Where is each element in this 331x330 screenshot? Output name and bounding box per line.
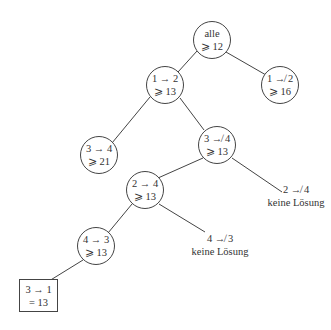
node-bound: ⩾ 13 <box>134 190 156 203</box>
node-4-to-3: 4 → 3 ⩾ 13 <box>77 227 115 265</box>
edge-2-4-4-3 <box>108 204 132 233</box>
node-root: alle ⩾ 12 <box>193 21 231 59</box>
leaf-not-2-to-4: 2 ↛ 4 keine Lösung <box>260 183 331 209</box>
node-not-1-to-2: 1 ↛ 2 ⩾ 16 <box>261 66 299 104</box>
node-bound: ⩾ 13 <box>206 145 228 158</box>
solution-label: 3 → 1 <box>25 283 51 296</box>
node-bound: ⩾ 13 <box>154 85 176 98</box>
node-label: 3 → 4 <box>86 142 112 155</box>
node-bound: ⩾ 13 <box>85 246 107 259</box>
node-not-3-to-4: 3 ↛ 4 ⩾ 13 <box>198 126 236 164</box>
node-2-to-4: 2 → 4 ⩾ 13 <box>126 171 164 209</box>
edge-1-2-3-4 <box>112 97 150 143</box>
node-bound: ⩾ 21 <box>88 155 110 168</box>
node-bound: ⩾ 16 <box>269 85 291 98</box>
leaf-result: keine Lösung <box>184 245 256 258</box>
edge-1-2-not-3-4 <box>180 98 204 130</box>
node-label: 1 → 2 <box>152 72 178 85</box>
edge-4-3-solution <box>49 260 83 281</box>
node-label: 1 ↛ 2 <box>267 72 293 85</box>
node-label: 4 → 3 <box>83 233 109 246</box>
node-label: 2 → 4 <box>132 177 158 190</box>
leaf-not-4-to-3: 4 ↛ 3 keine Lösung <box>184 232 256 258</box>
solution-box: 3 → 1 = 13 <box>19 279 58 312</box>
leaf-label: 4 ↛ 3 <box>184 232 256 245</box>
node-1-to-2: 1 → 2 ⩾ 13 <box>146 66 184 104</box>
solution-value: = 13 <box>29 296 48 309</box>
node-label: alle <box>204 27 219 40</box>
node-3-to-4: 3 → 4 ⩾ 21 <box>80 136 118 174</box>
leaf-label: 2 ↛ 4 <box>260 183 331 196</box>
edge-root-not-1-2 <box>226 52 266 75</box>
edge-root-1-2 <box>178 51 197 72</box>
node-bound: ⩾ 12 <box>201 40 223 53</box>
edge-not-3-4-2-4 <box>158 158 203 178</box>
leaf-result: keine Lösung <box>260 196 331 209</box>
edge-2-4-leaf <box>159 204 205 232</box>
node-label: 3 ↛ 4 <box>204 132 230 145</box>
